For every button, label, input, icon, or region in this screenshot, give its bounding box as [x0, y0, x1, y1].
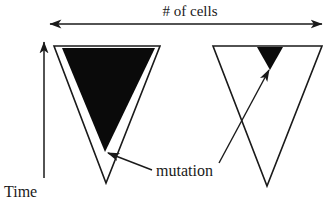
mutation-label: mutation [156, 162, 213, 179]
horizontal-axis-label: # of cells [163, 3, 218, 19]
right-population-outline [213, 46, 322, 186]
vertical-axis-label: Time [4, 183, 37, 200]
diagram-canvas: # of cells Time mutation [0, 0, 329, 203]
mutation-timing-diagram: # of cells Time mutation [0, 0, 329, 203]
